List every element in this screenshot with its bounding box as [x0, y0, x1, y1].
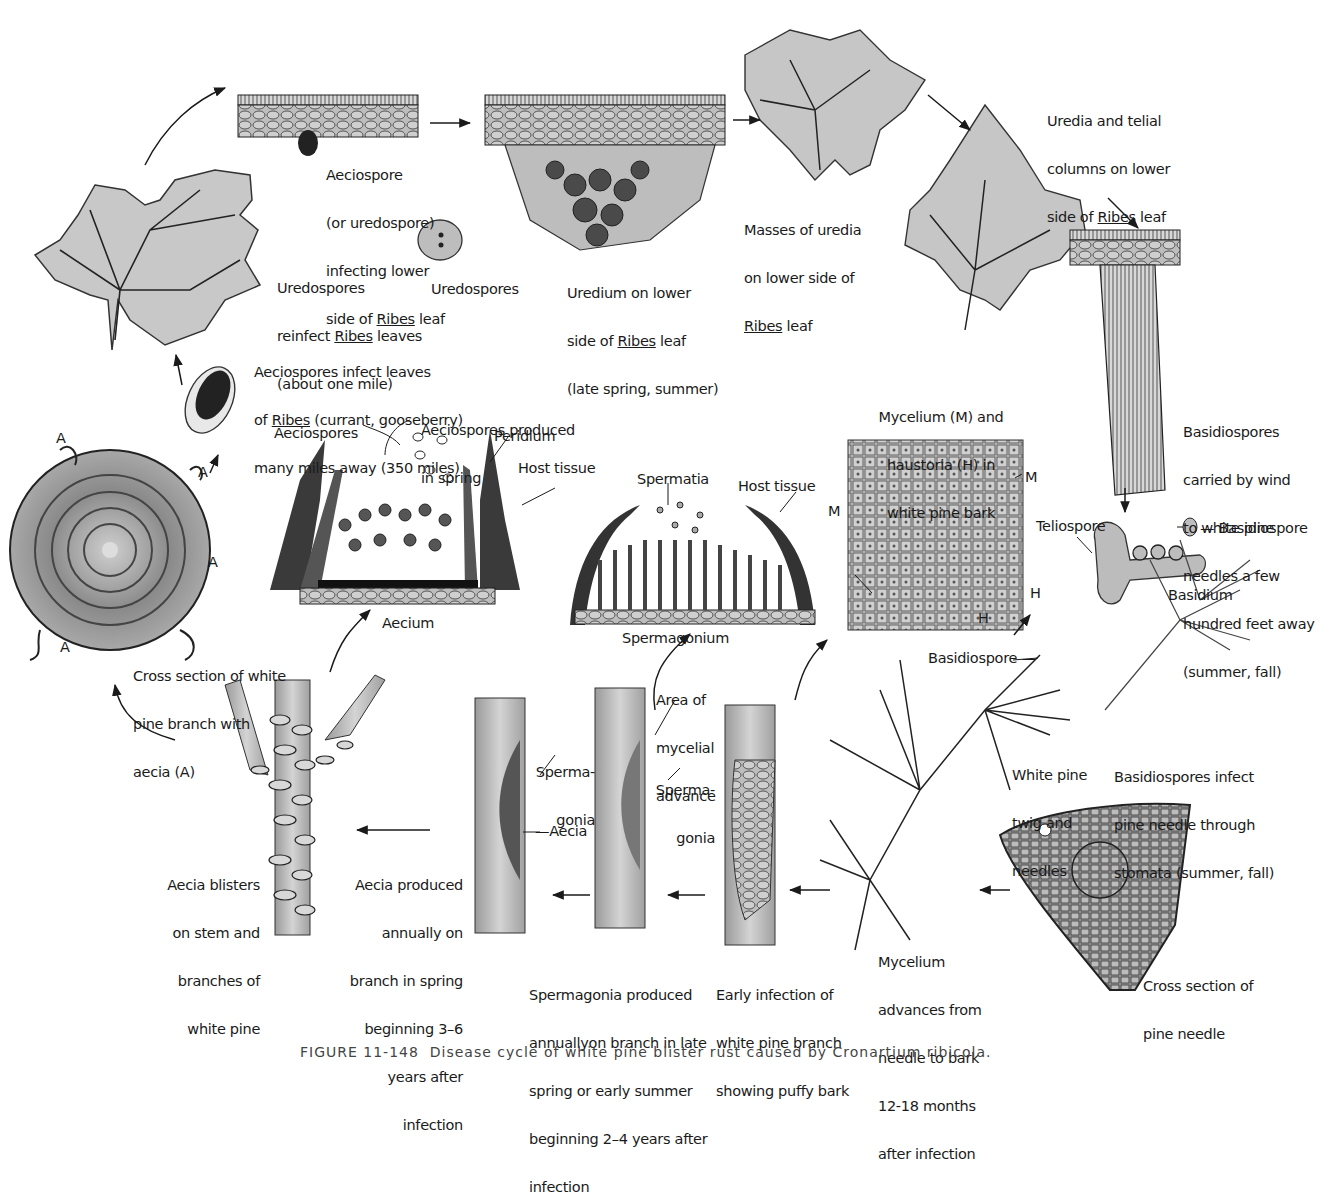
- label-aecia-produced: Aecia produced annually on branch in spr…: [343, 845, 463, 1149]
- label-aecium: Aecium: [382, 615, 434, 631]
- label-basidiospores-infect: Basidiospores infect pine needle through…: [1114, 737, 1274, 897]
- label-uredium: Uredium on lower side of Ribes leaf (lat…: [567, 253, 718, 413]
- label-h-bottom: H: [978, 610, 989, 626]
- label-uredospores: Uredospores: [431, 281, 519, 297]
- label-a-3: A: [208, 554, 218, 570]
- label-a-2: A: [198, 464, 208, 480]
- label-aecia-blisters: Aecia blisters on stem and branches of w…: [150, 845, 260, 1053]
- label-masses-uredia: Masses of uredia on lower side of Ribes …: [744, 190, 861, 350]
- label-spermatia: Spermatia: [637, 471, 709, 487]
- branch-cross-section: [10, 447, 210, 660]
- label-teliospore: Teliospore: [1036, 518, 1105, 534]
- label-h-right: H: [1030, 585, 1041, 601]
- label-aeciospores: Aeciospores: [274, 425, 358, 441]
- label-uredia-telial: Uredia and telial columns on lower side …: [1047, 81, 1170, 241]
- spermagonium-drawing: [570, 502, 815, 625]
- label-white-pine-twig: White pine twig and needles: [1012, 735, 1087, 895]
- figure-caption: FIGURE 11-148 Disease cycle of white pin…: [300, 1044, 991, 1060]
- label-aecia: —Aecia: [535, 823, 587, 839]
- label-spermagonium: Spermagonium: [622, 630, 729, 646]
- label-a-1: A: [56, 430, 66, 446]
- label-early-infection: Early infection of white pine branch sho…: [716, 955, 849, 1115]
- uredium-cross-section: [485, 95, 725, 250]
- label-host-tissue-2: Host tissue: [738, 478, 815, 494]
- label-peridium: Peridium: [494, 428, 555, 444]
- ribes-leaf-uredia: [745, 30, 925, 180]
- label-cross-section-needle: Cross section of pine needle: [1143, 946, 1253, 1058]
- label-host-tissue-1: Host tissue: [518, 460, 595, 476]
- label-basidiospore-2: Basidiospore —: [928, 650, 1036, 666]
- label-basidiospores-carried: Basidiospores carried by wind to white p…: [1183, 392, 1315, 696]
- ribes-leaf-large: [35, 170, 260, 350]
- label-basidium: Basidium: [1168, 587, 1233, 603]
- label-mycelium-haustoria: Mycelium (M) and haustoria (H) in white …: [856, 377, 1026, 537]
- telial-column: [1070, 230, 1180, 495]
- label-spermagonia-produced: Spermagonia produced annuallyon branch i…: [529, 955, 707, 1196]
- label-m-left: M: [828, 503, 840, 519]
- label-basidiospore-1: — Basidiospore: [1200, 520, 1308, 536]
- label-spermagonia-b: Sperma- gonia: [655, 750, 715, 862]
- label-aeciospores-produced: Aeciospores produced in spring: [421, 390, 575, 502]
- label-m-right: M: [1025, 469, 1037, 485]
- label-a-4: A: [60, 639, 70, 655]
- label-cross-section-branch: Cross section of white pine branch with …: [133, 636, 286, 796]
